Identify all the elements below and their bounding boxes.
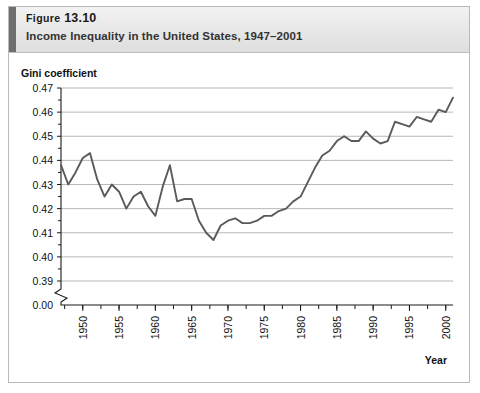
figure-header: Figure 13.10 Income Inequality in the Un… xyxy=(9,7,469,53)
x-tick-label: 1980 xyxy=(295,316,307,340)
x-tick-label: 1960 xyxy=(149,316,161,340)
x-tick-label: 1990 xyxy=(367,316,379,340)
x-tick-label: 1985 xyxy=(331,316,343,340)
y-tick-label: 0.39 xyxy=(33,275,54,287)
y-tick-label: 0.44 xyxy=(33,154,54,166)
x-tick-label: 2000 xyxy=(440,316,452,340)
x-tick-label: 1965 xyxy=(186,316,198,340)
x-tick-label: 1950 xyxy=(77,316,89,340)
axis-lines-with-break xyxy=(55,88,453,305)
x-tick-label: 1975 xyxy=(258,316,270,340)
y-tick-label: 0.41 xyxy=(33,227,54,239)
y-tick-label: 0.00 xyxy=(33,299,54,311)
data-series-line xyxy=(61,98,453,240)
y-tick-label: 0.47 xyxy=(33,82,54,94)
y-tick-label: 0.40 xyxy=(33,251,54,263)
x-tick-label: 1970 xyxy=(222,316,234,340)
figure-number-value: 13.10 xyxy=(64,11,96,25)
y-tick-label: 0.42 xyxy=(33,203,54,215)
y-tick-label: 0.45 xyxy=(33,130,54,142)
x-tick-label: 1955 xyxy=(113,316,125,340)
figure-number: Figure 13.10 xyxy=(26,11,96,25)
chart-plot: 0.470.460.450.440.430.420.410.400.390.00… xyxy=(9,53,469,382)
x-tick-label: 1995 xyxy=(403,316,415,340)
figure-number-prefix: Figure xyxy=(26,12,61,24)
figure-subtitle: Income Inequality in the United States, … xyxy=(26,30,303,42)
y-tick-label: 0.43 xyxy=(33,179,54,191)
header-accent-bar xyxy=(9,7,16,52)
chart-body: Gini coefficient Year 0.470.460.450.440.… xyxy=(9,53,469,382)
y-tick-label: 0.46 xyxy=(33,106,54,118)
figure-container: Figure 13.10 Income Inequality in the Un… xyxy=(8,6,470,383)
